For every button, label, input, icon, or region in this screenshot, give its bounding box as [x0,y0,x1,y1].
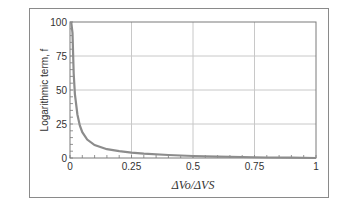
x-tick-label: 1 [313,161,319,172]
x-tick-label: 0 [67,161,73,172]
y-tick-label: 25 [56,119,68,130]
x-tick-label: 0.25 [122,161,142,172]
y-tick-label: 50 [56,85,68,96]
y-tick-label: 100 [50,17,67,28]
y-axis-label: Logarithmic term, f [39,48,50,131]
y-tick-label: 75 [56,51,68,62]
chart: 00.250.50.751 0255075100 Logarithmic ter… [0,0,343,212]
y-tick-label: 0 [61,153,67,164]
grid-lines [70,22,316,158]
x-tick-labels: 00.250.50.751 [67,161,319,172]
x-axis-label: ΔVo/ΔVS [171,178,215,192]
x-tick-label: 0.5 [186,161,200,172]
y-tick-labels: 0255075100 [50,17,67,164]
x-tick-label: 0.75 [245,161,265,172]
